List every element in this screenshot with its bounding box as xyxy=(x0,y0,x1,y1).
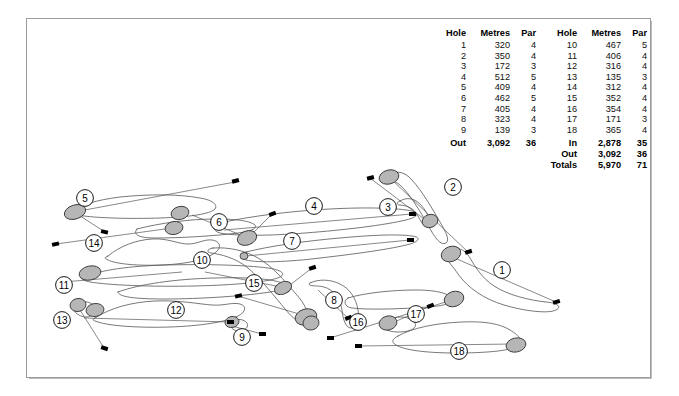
scorecard-cell-hole: 14 xyxy=(543,82,577,93)
scorecard-cell-metres: 320 xyxy=(466,40,510,51)
hole-marker-5[interactable]: 5 xyxy=(77,190,94,207)
scorecard-cell-hole: 13 xyxy=(543,72,577,83)
hole-marker-10[interactable]: 10 xyxy=(194,252,211,269)
scorecard-row: 83234 xyxy=(432,114,536,125)
hole-marker-11[interactable]: 11 xyxy=(56,277,73,294)
scorecard-cell-metres: 172 xyxy=(466,61,510,72)
scorecard-cell-metres: 171 xyxy=(577,114,621,125)
hole-marker-1[interactable]: 1 xyxy=(494,262,511,279)
scorecard-cell-par: 4 xyxy=(621,61,647,72)
hole-marker-label: 4 xyxy=(311,201,317,212)
green-16 xyxy=(442,289,466,309)
hole-marker-2[interactable]: 2 xyxy=(445,179,462,196)
scorecard-cell-hole: 1 xyxy=(432,40,466,51)
hole-marker-label: 13 xyxy=(56,315,68,326)
scorecard-out-header-row: Hole Metres Par xyxy=(432,28,536,40)
hole-marker-6[interactable]: 6 xyxy=(211,214,228,231)
scorecard-cell-par: 3 xyxy=(621,114,647,125)
green-3 xyxy=(420,212,439,229)
scorecard-total-row: Out3,09236 xyxy=(543,149,647,160)
play-line-12 xyxy=(84,318,230,322)
scorecard-total-label: Totals xyxy=(543,160,577,171)
hole-marker-label: 10 xyxy=(196,255,208,266)
scorecard-in-body: 1046751140641231641313531431241535241635… xyxy=(543,40,647,170)
hole-marker-7[interactable]: 7 xyxy=(284,233,301,250)
hole-marker-label: 17 xyxy=(410,309,422,320)
scorecard-cell-par: 4 xyxy=(621,51,647,62)
scorecard-row: 23504 xyxy=(432,51,536,62)
scorecard-cell-hole: 6 xyxy=(432,93,466,104)
scorecard-total-metres: 3,092 xyxy=(466,135,510,149)
tee-15 xyxy=(235,293,243,298)
green-13 xyxy=(69,297,87,313)
scorecard-row: 183654 xyxy=(543,125,647,136)
hole-marker-13[interactable]: 13 xyxy=(54,312,71,329)
scorecard-cell-metres: 312 xyxy=(577,82,621,93)
scorecard-cell-hole: 10 xyxy=(543,40,577,51)
tee-1 xyxy=(553,299,561,305)
scorecard-total-label: In xyxy=(543,135,577,149)
scorecard-cell-hole: 12 xyxy=(543,61,577,72)
scorecard-cell-metres: 323 xyxy=(466,114,510,125)
hole-marker-8[interactable]: 8 xyxy=(326,292,343,309)
tee-16 xyxy=(327,336,334,340)
scorecard-cell-metres: 406 xyxy=(577,51,621,62)
green-12 xyxy=(85,302,105,317)
scorecard-cell-metres: 354 xyxy=(577,104,621,115)
header-par-out: Par xyxy=(510,28,536,40)
tee-14 xyxy=(52,241,60,246)
scorecard-cell-par: 3 xyxy=(621,72,647,83)
scorecard-total-label: Out xyxy=(543,149,577,160)
fairway-1 xyxy=(446,249,559,312)
hole-marker-18[interactable]: 18 xyxy=(451,343,468,360)
hole-marker-4[interactable]: 4 xyxy=(306,198,323,215)
scorecard-cell-par: 5 xyxy=(510,93,536,104)
scorecard-row: 171713 xyxy=(543,114,647,125)
scorecard-row: 131353 xyxy=(543,72,647,83)
scorecard-total-par: 36 xyxy=(621,149,647,160)
scorecard-total-row: Totals5,97071 xyxy=(543,160,647,171)
hole-marker-16[interactable]: 16 xyxy=(350,314,367,331)
scorecard-row: 104675 xyxy=(543,40,647,51)
scorecard-cell-hole: 15 xyxy=(543,93,577,104)
play-line-5 xyxy=(74,182,235,212)
hole-marker-9[interactable]: 9 xyxy=(234,329,251,346)
scorecard-in-table: Hole Metres Par 104675114064123164131353… xyxy=(543,28,647,170)
green-1 xyxy=(439,244,463,265)
scorecard-cell-par: 4 xyxy=(621,125,647,136)
hole-marker-12[interactable]: 12 xyxy=(168,302,185,319)
tee-9 xyxy=(259,332,266,336)
scorecard-total-row: In2,87835 xyxy=(543,135,647,149)
scorecard-cell-metres: 139 xyxy=(466,125,510,136)
header-par-in: Par xyxy=(621,28,647,40)
scorecard-cell-par: 3 xyxy=(510,125,536,136)
scorecard-total-metres: 2,878 xyxy=(577,135,621,149)
scorecard-cell-hole: 3 xyxy=(432,61,466,72)
fairway-16 xyxy=(345,290,452,309)
tee-5b xyxy=(101,229,109,234)
page-root: 123456789101112131415161718 Hole Metres … xyxy=(0,0,679,396)
scorecard-row: 74054 xyxy=(432,104,536,115)
scorecard-cell-par: 4 xyxy=(510,104,536,115)
hole-marker-3[interactable]: 3 xyxy=(380,199,397,216)
hole-marker-label: 16 xyxy=(352,317,364,328)
scorecard-row: 153524 xyxy=(543,93,647,104)
green-10 xyxy=(272,279,293,297)
scorecard-cell-metres: 409 xyxy=(466,82,510,93)
hole-marker-label: 18 xyxy=(453,346,465,357)
scorecard-total-label: Out xyxy=(432,135,466,149)
hole-marker-label: 9 xyxy=(239,332,245,343)
hole-marker-14[interactable]: 14 xyxy=(86,235,103,252)
hole-marker-15[interactable]: 15 xyxy=(246,275,263,292)
tee-12 xyxy=(227,320,234,324)
hole-marker-label: 3 xyxy=(385,202,391,213)
scorecard-cell-par: 4 xyxy=(621,93,647,104)
scorecard-row: 143124 xyxy=(543,82,647,93)
header-metres-out: Metres xyxy=(466,28,510,40)
hole-marker-17[interactable]: 17 xyxy=(408,306,425,323)
tee-4 xyxy=(409,212,416,216)
scorecard-cell-metres: 405 xyxy=(466,104,510,115)
scorecard-cell-hole: 7 xyxy=(432,104,466,115)
scorecard-cell-par: 4 xyxy=(510,114,536,125)
scorecard-cell-metres: 365 xyxy=(577,125,621,136)
